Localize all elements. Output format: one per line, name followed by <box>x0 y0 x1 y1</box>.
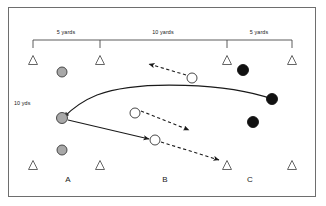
side-distance-label: 10 yds <box>14 101 30 106</box>
dimension-label-0: 5 yards <box>57 30 75 35</box>
player-gray-1 <box>57 113 68 124</box>
route-middle-down-right <box>141 111 189 130</box>
cone-bottom-0 <box>29 161 38 170</box>
dimension-label-2: 5 yards <box>250 30 268 35</box>
player-white-0 <box>187 73 197 83</box>
player-gray-2 <box>57 145 67 155</box>
dimension-label-1: 10 yards <box>152 30 173 35</box>
player-gray-0 <box>57 67 67 77</box>
cone-top-2 <box>223 56 232 65</box>
player-black-0 <box>238 65 249 76</box>
route-upper-left <box>149 64 186 75</box>
player-black-2 <box>248 117 259 128</box>
cone-top-1 <box>96 56 105 65</box>
player-black-1 <box>267 94 278 105</box>
solid-movement-paths <box>64 85 272 139</box>
cone-top-0 <box>29 56 38 65</box>
route-lower-right <box>161 142 219 160</box>
yardage-bracket <box>33 40 292 48</box>
dashed-route-paths <box>141 64 219 160</box>
diagram-canvas: 5 yards10 yards5 yards10 ydsABC <box>0 0 326 206</box>
cone-bottom-1 <box>96 161 105 170</box>
cone-top-3 <box>288 56 297 65</box>
group-label-c: C <box>247 176 253 184</box>
player-white-1 <box>130 108 140 118</box>
cone-bottom-3 <box>288 161 297 170</box>
player-markers <box>57 65 278 156</box>
cone-bottom-2 <box>223 161 232 170</box>
group-label-a: A <box>65 176 70 184</box>
run-path <box>68 120 149 139</box>
group-label-b: B <box>162 176 167 184</box>
player-white-2 <box>150 135 160 145</box>
curved-pass-path <box>64 85 272 117</box>
